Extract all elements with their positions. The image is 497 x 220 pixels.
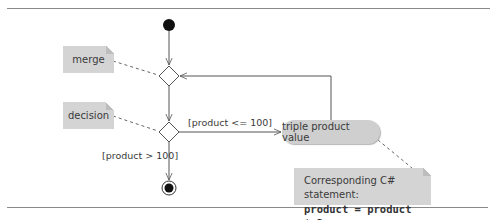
- guard-loop-label: [product <= 100]: [188, 117, 272, 128]
- merge-note-label: merge: [72, 54, 104, 65]
- decision-note-label: decision: [68, 110, 109, 121]
- initial-node: [163, 19, 175, 31]
- decision-note: decision: [63, 102, 114, 129]
- merge-note: merge: [63, 46, 114, 73]
- statement-note-code: product = product * 3;: [304, 202, 421, 220]
- note-fold-icon: [423, 168, 431, 176]
- decision-node: [159, 122, 179, 142]
- action-state-triple-product: triple product value: [282, 120, 380, 144]
- statement-note: Corresponding C# statement: product = pr…: [294, 168, 431, 205]
- statement-note-title: Corresponding C# statement:: [304, 174, 421, 202]
- merge-node: [159, 66, 179, 86]
- note-fold-icon: [106, 102, 114, 110]
- action-state-label: triple product value: [282, 121, 380, 143]
- note-fold-icon: [106, 46, 114, 54]
- guard-exit-label: [product > 100]: [102, 150, 178, 161]
